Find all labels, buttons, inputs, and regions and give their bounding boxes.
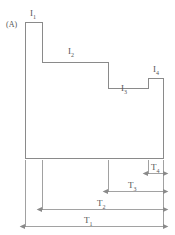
step-waveform-svg xyxy=(0,0,175,235)
time-label-t1-sub: 1 xyxy=(90,221,93,227)
time-label-t2-sub: 2 xyxy=(103,204,106,210)
time-label-t2: T2 xyxy=(97,199,106,210)
time-label-t3: T3 xyxy=(128,181,137,192)
time-label-t4-sub: 4 xyxy=(157,168,160,174)
intensity-label-i3-sub: 3 xyxy=(124,89,127,95)
figure-panel-a: (A) I1 I2 I3 I4 T4 T3 T2 T1 xyxy=(0,0,175,235)
panel-label: (A) xyxy=(6,21,17,29)
intensity-label-i1: I1 xyxy=(30,9,36,20)
extension-lines xyxy=(26,160,164,227)
time-label-t3-sub: 3 xyxy=(134,186,137,192)
dimension-lines xyxy=(25,174,163,227)
intensity-label-i3: I3 xyxy=(121,84,127,95)
waveform-outline xyxy=(25,22,163,158)
intensity-label-i2: I2 xyxy=(68,47,74,58)
intensity-label-i1-sub: 1 xyxy=(33,14,36,20)
time-label-t1: T1 xyxy=(84,216,93,227)
intensity-label-i4-sub: 4 xyxy=(156,70,159,76)
time-label-t4: T4 xyxy=(151,163,160,174)
intensity-label-i2-sub: 2 xyxy=(71,52,74,58)
intensity-label-i4: I4 xyxy=(153,65,159,76)
